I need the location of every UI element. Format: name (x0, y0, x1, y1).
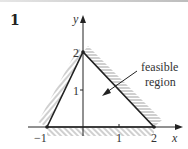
y-tick-label-1: 1 (73, 84, 79, 98)
annotation-line1: feasible (141, 60, 178, 74)
x-tick-label-1: 1 (116, 131, 122, 145)
vertex-point (152, 125, 156, 129)
y-axis-arrow-icon (80, 15, 86, 23)
vertex-point (81, 50, 85, 54)
y-axis-label: y (72, 12, 79, 26)
y-tick-label-2: 2 (73, 46, 79, 60)
vertex-point (45, 125, 49, 129)
feasible-region-diagram: y x 2 1 −1 1 2 feasible region (0, 0, 188, 149)
x-axis-arrow-icon (175, 124, 183, 130)
annotation-arrowhead-icon (102, 88, 111, 96)
hatch-below-axis (47, 128, 154, 136)
x-tick-label-2: 2 (151, 131, 157, 145)
annotation-line2: region (145, 75, 176, 89)
x-axis-label: x (171, 131, 178, 145)
x-tick-label-neg1: −1 (34, 131, 47, 145)
